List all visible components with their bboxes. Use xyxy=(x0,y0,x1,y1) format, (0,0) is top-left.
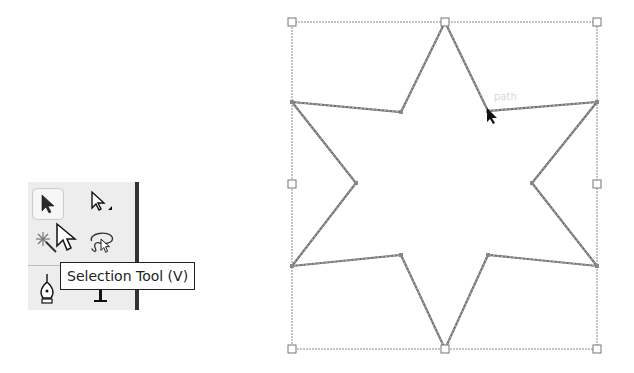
star-path[interactable] xyxy=(292,22,597,349)
star-path-highlight xyxy=(292,22,597,349)
artboard-canvas xyxy=(0,0,634,373)
bbox-handles[interactable] xyxy=(288,18,601,353)
bounding-box xyxy=(292,22,597,349)
star-drawing[interactable] xyxy=(0,0,634,373)
path-hover-label: path xyxy=(494,91,517,102)
anchor-points xyxy=(290,100,599,268)
